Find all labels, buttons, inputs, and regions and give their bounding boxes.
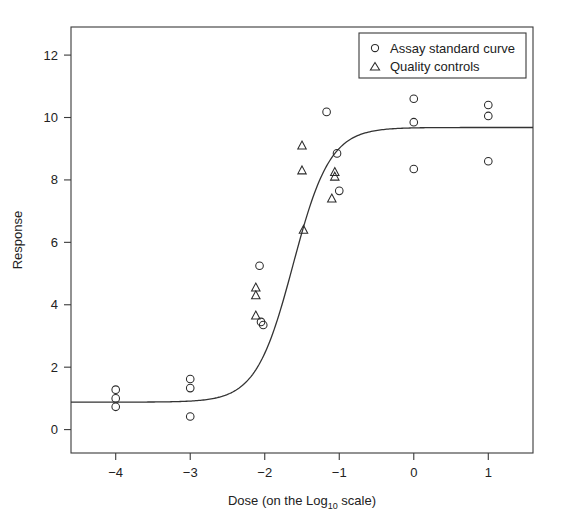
assay-standard-curve-figure: −4−3−2−101 024681012 Dose (on the Log10 … [0,0,561,530]
x-tick-label: 1 [485,465,492,480]
y-axis-tick-labels: 024681012 [44,48,58,438]
data-point-circle [484,112,492,120]
legend: Assay standard curve Quality controls [359,33,526,78]
fitted-curve [71,127,533,402]
x-tick-label: −1 [332,465,347,480]
y-axis-ticks [64,55,71,430]
data-point-markers [112,95,492,420]
plot-canvas: −4−3−2−101 024681012 Dose (on the Log10 … [0,0,561,530]
data-point-circle [186,375,194,383]
data-point-circle [256,262,264,270]
legend-label-quality-controls: Quality controls [390,59,480,74]
data-point-triangle [252,291,260,299]
data-point-circle [410,165,418,173]
x-axis-tick-labels: −4−3−2−101 [108,465,492,480]
data-point-circle [323,108,331,116]
y-tick-label: 12 [44,48,58,63]
y-tick-label: 4 [51,297,58,312]
data-point-circle [484,101,492,109]
legend-label-assay-standard-curve: Assay standard curve [390,41,515,56]
data-point-circle [335,187,343,195]
data-point-triangle [252,311,260,319]
x-tick-label: −3 [183,465,198,480]
data-point-triangle [298,141,306,149]
x-tick-label: −2 [257,465,272,480]
y-tick-label: 0 [51,422,58,437]
data-point-circle [410,95,418,103]
y-tick-label: 6 [51,235,58,250]
y-tick-label: 2 [51,360,58,375]
plot-frame [71,27,533,453]
x-tick-label: −4 [108,465,123,480]
data-point-circle [484,157,492,165]
data-point-circle [112,395,120,403]
data-point-circle [112,386,120,394]
x-axis-title: Dose (on the Log10 scale) [228,493,376,511]
data-point-circle [112,403,120,411]
x-tick-label: 0 [410,465,417,480]
data-point-triangle [328,194,336,202]
y-axis-title: Response [10,211,25,270]
x-axis-ticks [116,453,489,460]
data-point-circle [186,384,194,392]
data-point-circle [186,413,194,421]
y-tick-label: 8 [51,172,58,187]
data-point-triangle [298,166,306,174]
data-point-circle [410,118,418,126]
y-tick-label: 10 [44,110,58,125]
